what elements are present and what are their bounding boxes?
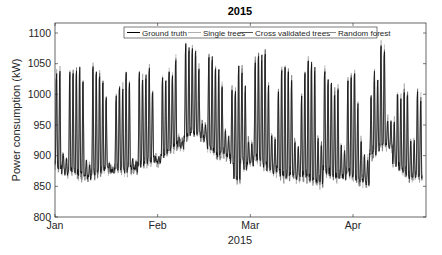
- y-axis: 800850900950100010501100: [28, 27, 426, 223]
- chart: 2015 800850900950100010501100 JanFebMarA…: [0, 0, 442, 255]
- chart-title: 2015: [228, 5, 252, 17]
- y-tick-label: 1000: [28, 88, 52, 100]
- svg-text:Single trees: Single trees: [203, 29, 245, 38]
- svg-text:Cross validated trees: Cross validated trees: [255, 29, 330, 38]
- y-tick-label: 1050: [28, 57, 52, 69]
- y-tick-label: 1100: [28, 27, 51, 39]
- y-tick-label: 850: [33, 180, 51, 192]
- svg-text:Random forest: Random forest: [338, 29, 391, 38]
- y-tick-label: 950: [33, 119, 51, 131]
- plot-series: [55, 40, 422, 189]
- x-tick-label: Mar: [241, 219, 260, 231]
- series-ground-truth: [55, 44, 422, 185]
- x-tick-label: Apr: [345, 219, 362, 231]
- svg-text:Ground truth: Ground truth: [142, 29, 187, 38]
- x-tick-label: Feb: [149, 219, 167, 231]
- legend: Ground truth Single trees Cross validate…: [124, 27, 391, 38]
- x-axis-label: 2015: [228, 234, 252, 246]
- y-axis-label: Power consumption (kW): [10, 59, 22, 182]
- y-tick-label: 900: [33, 149, 51, 161]
- x-tick-label: Jan: [47, 219, 64, 231]
